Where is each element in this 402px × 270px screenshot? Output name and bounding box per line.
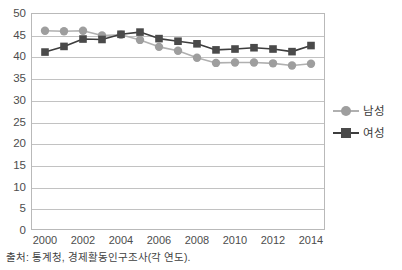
line-chart: 05101520253035404550 2000200220042006200… <box>0 0 402 270</box>
data-point-circle <box>212 59 220 67</box>
data-point-circle <box>79 27 87 35</box>
data-point-square <box>79 35 87 43</box>
data-point-circle <box>193 54 201 62</box>
data-point-square <box>269 45 277 53</box>
data-point-circle <box>288 61 296 69</box>
data-point-square <box>174 37 182 45</box>
legend-symbol-circle-icon <box>333 104 359 118</box>
data-point-square <box>193 40 201 48</box>
legend-label: 여성 <box>363 127 385 140</box>
data-point-circle <box>250 58 258 66</box>
data-point-circle <box>60 27 68 35</box>
legend-symbol-square-icon <box>333 126 359 140</box>
data-point-circle <box>155 43 163 51</box>
legend-item-여성[interactable]: 여성 <box>333 122 399 144</box>
data-point-square <box>288 48 296 56</box>
legend-item-남성[interactable]: 남성 <box>333 100 399 122</box>
legend-marker-square-icon <box>341 128 351 138</box>
data-point-circle <box>307 60 315 68</box>
source-note: 출처: 통계청, 경제활동인구조사(각 연도). <box>6 251 191 264</box>
data-point-square <box>117 30 125 38</box>
data-point-square <box>155 35 163 43</box>
data-point-square <box>231 45 239 53</box>
data-point-square <box>41 48 49 56</box>
data-point-square <box>212 46 220 54</box>
data-point-square <box>60 43 68 51</box>
data-point-circle <box>231 58 239 66</box>
data-point-circle <box>174 47 182 55</box>
data-point-circle <box>269 59 277 67</box>
legend-label: 남성 <box>363 105 385 118</box>
data-point-circle <box>41 27 49 35</box>
chart-legend: 남성여성 <box>333 100 399 144</box>
data-point-square <box>98 36 106 44</box>
legend-marker-circle-icon <box>341 106 351 116</box>
data-point-square <box>136 28 144 36</box>
data-point-square <box>307 42 315 50</box>
data-point-square <box>250 44 258 52</box>
data-point-circle <box>136 36 144 44</box>
